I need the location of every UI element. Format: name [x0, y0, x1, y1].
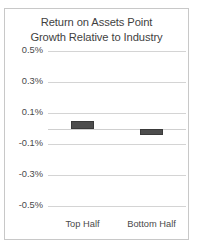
x-category-label-1: Bottom Half [127, 220, 176, 229]
zero-gridline [48, 129, 186, 130]
gridline-1 [48, 82, 186, 83]
gridline-5 [48, 175, 186, 176]
chart-title-line-2: Growth Relative to Industry [5, 30, 188, 45]
gridline-4 [48, 144, 186, 145]
bar-1 [140, 129, 163, 135]
y-tick-label-2: 0.1% [22, 108, 43, 117]
chart-frame: Return on Assets Point Growth Relative t… [4, 8, 189, 240]
y-tick-label-4: -0.3% [19, 170, 43, 179]
y-tick-label-3: -0.1% [19, 139, 43, 148]
gridline-6 [48, 206, 186, 207]
chart-title: Return on Assets Point Growth Relative t… [5, 15, 188, 44]
plot-area: 0.5%0.3%0.1%-0.1%-0.3%-0.5% Top HalfBott… [48, 51, 186, 206]
bar-0 [71, 121, 94, 129]
y-tick-label-1: 0.3% [22, 77, 43, 86]
gridline-0 [48, 51, 186, 52]
x-category-label-0: Top Half [65, 220, 99, 229]
gridline-2 [48, 113, 186, 114]
chart-title-line-1: Return on Assets Point [5, 15, 188, 30]
y-tick-label-0: 0.5% [22, 46, 43, 55]
y-tick-label-5: -0.5% [19, 201, 43, 210]
